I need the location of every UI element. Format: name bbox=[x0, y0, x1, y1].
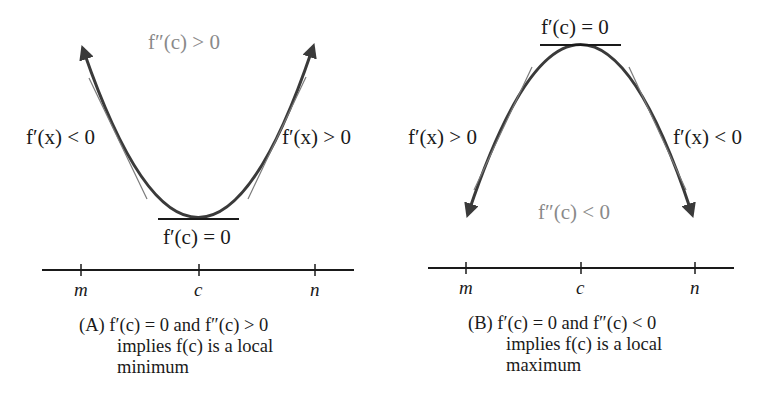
panel-b-caption-line2: implies f(c) is a local bbox=[468, 334, 662, 355]
panel-b-tick-label-n: n bbox=[690, 278, 700, 297]
panel-b-tangent-left bbox=[474, 67, 532, 190]
panel-a-second-derivative-label: f″(c) > 0 bbox=[148, 32, 220, 53]
panel-b-left-slope-label: f′(x) > 0 bbox=[408, 127, 477, 148]
panel-b-vertex-label: f′(c) = 0 bbox=[541, 17, 609, 38]
panel-b-caption-line1: (B) f′(c) = 0 and f″(c) < 0 bbox=[468, 313, 656, 333]
panel-b-second-derivative-label: f″(c) < 0 bbox=[538, 202, 610, 223]
panel-a-left-slope-label: f′(x) < 0 bbox=[26, 127, 95, 148]
panel-b-tick-label-c: c bbox=[576, 278, 584, 297]
panel-a-tick-label-m: m bbox=[74, 280, 88, 299]
panel-a-tick-label-n: n bbox=[310, 280, 320, 299]
panel-a-caption-line1: (A) f′(c) = 0 and f″(c) > 0 bbox=[79, 315, 268, 335]
panel-a-tick-label-c: c bbox=[194, 280, 202, 299]
panel-b-graph bbox=[428, 45, 734, 275]
panel-a-right-slope-label: f′(x) > 0 bbox=[282, 127, 351, 148]
panel-b-caption-line3: maximum bbox=[468, 355, 662, 376]
panel-a-caption-line2: implies f(c) is a local bbox=[79, 336, 273, 357]
panel-b-right-slope-label: f′(x) < 0 bbox=[673, 127, 742, 148]
panel-a-caption-line3: minimum bbox=[79, 357, 273, 378]
panel-a-curve bbox=[84, 50, 312, 218]
panel-a-vertex-label: f′(c) = 0 bbox=[163, 227, 231, 248]
panel-b-caption: (B) f′(c) = 0 and f″(c) < 0 implies f(c)… bbox=[468, 313, 662, 376]
panel-a-tangent-left bbox=[89, 78, 147, 199]
panel-b-tick-label-m: m bbox=[459, 278, 473, 297]
panel-a-caption: (A) f′(c) = 0 and f″(c) > 0 implies f(c)… bbox=[79, 315, 273, 378]
